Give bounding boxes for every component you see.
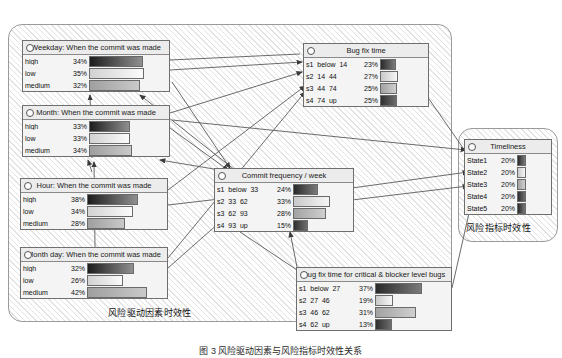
node-title-label: Hour: When the commit was made bbox=[36, 181, 151, 190]
node-row: State3 20% bbox=[465, 178, 551, 190]
node-title: Hour: When the commit was made bbox=[21, 179, 167, 193]
node-weekday[interactable]: Weekday: When the commit was made high 3… bbox=[22, 40, 170, 92]
node-body: s1_below_27 37% s2_27_46 19% s3_46_62 31… bbox=[297, 282, 451, 330]
row-value: 19% bbox=[355, 297, 375, 304]
row-bar-track bbox=[375, 283, 450, 294]
node-row: s2_14_44 27% bbox=[304, 70, 428, 82]
row-bar-track bbox=[517, 179, 550, 190]
node-row: high 33% bbox=[23, 120, 169, 132]
row-bar-track bbox=[375, 307, 450, 318]
row-bar bbox=[87, 275, 123, 286]
node-hour[interactable]: Hour: When the commit was made high 38% … bbox=[20, 178, 168, 230]
node-row: s2_33_62 33% bbox=[215, 195, 353, 207]
row-bar bbox=[375, 319, 392, 330]
row-bar-track bbox=[517, 155, 550, 166]
node-row: low 26% bbox=[21, 274, 167, 286]
row-label: low bbox=[21, 208, 67, 215]
node-bug-fix-time[interactable]: Bug fix time s1_below_14 23% s2_14_44 27… bbox=[303, 43, 429, 107]
row-bar-track bbox=[375, 319, 450, 330]
ellipse-icon bbox=[26, 109, 34, 117]
node-commit-frequency[interactable]: Commit frequency / week s1_below_33 24% … bbox=[214, 168, 354, 232]
ellipse-icon bbox=[24, 182, 32, 190]
row-bar bbox=[89, 80, 140, 91]
node-row: s1_below_33 24% bbox=[215, 183, 353, 195]
node-title-label: Month: When the commit was made bbox=[36, 108, 156, 117]
row-bar bbox=[517, 179, 526, 190]
row-value: 26% bbox=[67, 277, 87, 284]
node-title: Month day: When the commit was made bbox=[21, 248, 167, 262]
row-bar-track bbox=[89, 145, 168, 156]
row-label: s1_below_14 bbox=[304, 61, 360, 68]
node-row: s4_62_up 13% bbox=[297, 318, 451, 330]
row-value: 28% bbox=[67, 220, 87, 227]
node-body: s1_below_14 23% s2_14_44 27% s3_44_74 25… bbox=[304, 58, 428, 106]
row-value: 42% bbox=[67, 289, 87, 296]
node-body: high 38% low 34% medium 28% bbox=[21, 193, 167, 229]
row-bar-track bbox=[517, 167, 550, 178]
row-label: State4 bbox=[465, 193, 497, 200]
row-label: medium bbox=[21, 220, 67, 227]
node-row: low 33% bbox=[23, 132, 169, 144]
row-bar-track bbox=[89, 133, 168, 144]
row-label: low bbox=[23, 135, 69, 142]
node-title-label: Weekday: When the commit was made bbox=[31, 43, 161, 52]
node-title: Bug fix time for critical & blocker leve… bbox=[297, 268, 451, 282]
row-value: 28% bbox=[273, 210, 293, 217]
row-value: 33% bbox=[69, 123, 89, 130]
node-bug-fix-time-critical[interactable]: Bug fix time for critical & blocker leve… bbox=[296, 267, 452, 331]
row-value: 25% bbox=[360, 85, 380, 92]
row-value: 20% bbox=[497, 157, 517, 164]
node-month[interactable]: Month: When the commit was made high 33%… bbox=[22, 105, 170, 157]
node-row: State5 20% bbox=[465, 202, 551, 214]
row-value: 32% bbox=[67, 265, 87, 272]
node-row: s1_below_14 23% bbox=[304, 58, 428, 70]
row-bar bbox=[375, 283, 422, 294]
row-bar bbox=[89, 56, 143, 67]
node-row: State4 20% bbox=[465, 190, 551, 202]
row-value: 34% bbox=[69, 58, 89, 65]
row-bar-track bbox=[293, 220, 352, 231]
row-value: 34% bbox=[67, 208, 87, 215]
row-label: s4_93_up bbox=[215, 222, 273, 229]
ellipse-icon bbox=[307, 47, 315, 55]
node-row: medium 28% bbox=[21, 217, 167, 229]
row-bar bbox=[517, 155, 526, 166]
row-label: s2_27_46 bbox=[297, 297, 355, 304]
row-bar bbox=[293, 196, 330, 207]
row-bar-track bbox=[517, 191, 550, 202]
group-label-risk-drivers: 风险驱动因素时效性 bbox=[108, 306, 192, 319]
row-bar-track bbox=[517, 203, 550, 214]
row-bar-track bbox=[293, 184, 352, 195]
node-row: high 32% bbox=[21, 262, 167, 274]
node-body: s1_below_33 24% s2_33_62 33% s3_62_93 28… bbox=[215, 183, 353, 231]
row-bar-track bbox=[375, 295, 450, 306]
row-bar bbox=[380, 59, 396, 70]
node-month-day[interactable]: Month day: When the commit was made high… bbox=[20, 247, 168, 299]
row-label: high bbox=[21, 196, 67, 203]
row-label: State1 bbox=[465, 157, 497, 164]
node-row: s4_93_up 15% bbox=[215, 219, 353, 231]
node-row: s3_46_62 31% bbox=[297, 306, 451, 318]
node-title: Timeliness bbox=[465, 140, 551, 154]
node-row: high 34% bbox=[23, 55, 169, 67]
row-value: 31% bbox=[355, 309, 375, 316]
row-label: s3_44_74 bbox=[304, 85, 360, 92]
row-bar-track bbox=[293, 196, 352, 207]
node-row: high 38% bbox=[21, 193, 167, 205]
row-value: 20% bbox=[497, 169, 517, 176]
row-label: high bbox=[21, 265, 67, 272]
row-bar-track bbox=[89, 56, 168, 67]
node-body: high 34% low 35% medium 32% bbox=[23, 55, 169, 91]
row-bar bbox=[87, 287, 147, 298]
row-bar bbox=[380, 95, 397, 106]
node-body: high 32% low 26% medium 42% bbox=[21, 262, 167, 298]
row-bar-track bbox=[87, 263, 166, 274]
node-body: high 33% low 33% medium 34% bbox=[23, 120, 169, 156]
row-bar-track bbox=[89, 80, 168, 91]
row-bar bbox=[380, 83, 397, 94]
row-value: 25% bbox=[360, 97, 380, 104]
row-label: high bbox=[23, 123, 69, 130]
node-title: Commit frequency / week bbox=[215, 169, 353, 183]
row-label: s3_62_93 bbox=[215, 210, 273, 217]
node-timeliness[interactable]: Timeliness State1 20% State2 20% State3 … bbox=[464, 139, 552, 215]
